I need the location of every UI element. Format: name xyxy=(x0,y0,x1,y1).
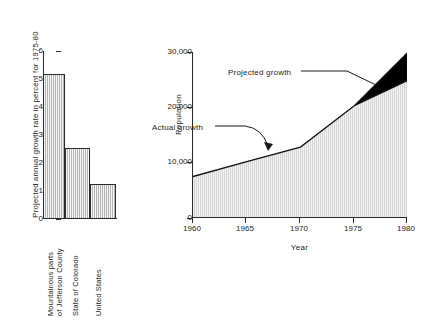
bar-state-of-colorado xyxy=(65,148,90,219)
area-chart-x-ticks: 1960 1965 1970 1975 1980 xyxy=(140,0,422,322)
bar-category-label-2-line-0: United States xyxy=(94,269,103,316)
bar-category-label-0: Mountainous parts of Jefferson County xyxy=(46,248,64,316)
bar-category-label-1: State of Colorado xyxy=(71,255,80,316)
bar-y-tick-4: 4 xyxy=(29,102,43,111)
bar-category-label-1-line-0: State of Colorado xyxy=(71,255,80,316)
area-x-tick-1965: 1965 xyxy=(225,224,265,233)
area-x-tick-1975: 1975 xyxy=(333,224,373,233)
growth-rate-bar-chart: Projected annual growth rate in percent … xyxy=(0,0,150,322)
area-chart-x-axis-label: Year xyxy=(192,243,407,252)
bar-y-tick-3: 3 xyxy=(29,130,43,139)
population-growth-area-chart: Population 0 10,000 20,000 30,000 xyxy=(140,0,422,322)
area-x-tick-1980: 1980 xyxy=(386,224,422,233)
bar-y-tick-6: 6 xyxy=(29,46,43,55)
bar-category-label-2: United States xyxy=(94,269,103,316)
bar-chart-category-labels: Mountainous parts of Jefferson County St… xyxy=(40,224,150,322)
bar-mountainous-parts-of-jefferson-county xyxy=(43,74,65,219)
bar-united-states xyxy=(90,184,116,219)
bar-category-label-0-line-0: Mountainous parts xyxy=(46,248,55,316)
bar-chart-baseline xyxy=(43,218,117,219)
bar-y-tick-0: 0 xyxy=(29,214,43,223)
bar-chart-plot-area xyxy=(43,51,116,219)
bar-y-tick-5: 5 xyxy=(29,74,43,83)
bar-y-tick-2: 2 xyxy=(29,158,43,167)
figure: Projected annual growth rate in percent … xyxy=(0,0,422,322)
bar-category-label-0-line-1: of Jefferson County xyxy=(55,248,64,316)
area-x-tick-1970: 1970 xyxy=(279,224,319,233)
bar-y-tick-1: 1 xyxy=(29,186,43,195)
area-x-tick-1960: 1960 xyxy=(172,224,212,233)
